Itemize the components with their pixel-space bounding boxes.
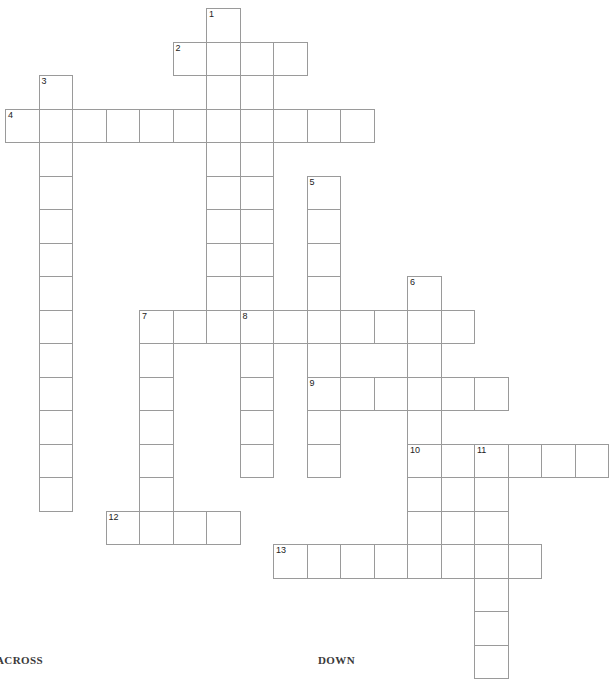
crossword-cell[interactable] bbox=[374, 377, 409, 412]
crossword-cell[interactable]: 4 bbox=[5, 109, 40, 144]
crossword-cell[interactable] bbox=[407, 477, 442, 512]
crossword-cell[interactable] bbox=[39, 343, 74, 378]
crossword-cell[interactable] bbox=[39, 410, 74, 445]
crossword-cell[interactable] bbox=[139, 477, 174, 512]
crossword-cell[interactable] bbox=[307, 410, 342, 445]
crossword-cell[interactable] bbox=[206, 276, 241, 311]
crossword-cell[interactable] bbox=[173, 310, 208, 345]
crossword-cell[interactable] bbox=[139, 343, 174, 378]
crossword-cell[interactable] bbox=[39, 109, 74, 144]
crossword-cell[interactable] bbox=[139, 511, 174, 546]
crossword-cell[interactable] bbox=[340, 544, 375, 579]
crossword-cell[interactable] bbox=[474, 477, 509, 512]
crossword-cell[interactable] bbox=[273, 42, 308, 77]
crossword-cell[interactable] bbox=[139, 377, 174, 412]
crossword-cell[interactable]: 1 bbox=[206, 8, 241, 43]
crossword-cell[interactable] bbox=[407, 410, 442, 445]
crossword-cell[interactable] bbox=[307, 343, 342, 378]
crossword-cell[interactable] bbox=[407, 377, 442, 412]
crossword-cell[interactable]: 5 bbox=[307, 176, 342, 211]
crossword-cell[interactable] bbox=[240, 276, 275, 311]
crossword-cell[interactable] bbox=[39, 377, 74, 412]
crossword-cell[interactable] bbox=[206, 511, 241, 546]
crossword-cell[interactable] bbox=[474, 578, 509, 613]
crossword-cell[interactable] bbox=[441, 544, 476, 579]
crossword-cell[interactable] bbox=[206, 176, 241, 211]
crossword-cell[interactable] bbox=[206, 310, 241, 345]
crossword-cell[interactable] bbox=[139, 109, 174, 144]
crossword-cell[interactable] bbox=[240, 410, 275, 445]
crossword-cell[interactable]: 10 bbox=[407, 444, 442, 479]
crossword-cell[interactable] bbox=[206, 75, 241, 110]
crossword-cell[interactable] bbox=[240, 343, 275, 378]
crossword-cell[interactable] bbox=[474, 544, 509, 579]
crossword-cell[interactable] bbox=[508, 444, 543, 479]
crossword-cell[interactable] bbox=[273, 109, 308, 144]
crossword-cell[interactable] bbox=[240, 142, 275, 177]
crossword-cell[interactable] bbox=[441, 477, 476, 512]
crossword-cell[interactable]: 12 bbox=[106, 511, 141, 546]
crossword-cell[interactable]: 9 bbox=[307, 377, 342, 412]
crossword-cell[interactable] bbox=[39, 444, 74, 479]
crossword-cell[interactable] bbox=[39, 142, 74, 177]
crossword-cell[interactable]: 6 bbox=[407, 276, 442, 311]
crossword-cell[interactable] bbox=[39, 209, 74, 244]
crossword-cell[interactable] bbox=[173, 109, 208, 144]
crossword-cell[interactable] bbox=[240, 109, 275, 144]
crossword-cell[interactable] bbox=[39, 310, 74, 345]
crossword-cell[interactable] bbox=[407, 511, 442, 546]
crossword-cell[interactable] bbox=[139, 444, 174, 479]
crossword-cell[interactable] bbox=[374, 544, 409, 579]
crossword-cell[interactable] bbox=[206, 243, 241, 278]
crossword-cell[interactable] bbox=[206, 209, 241, 244]
crossword-cell[interactable]: 2 bbox=[173, 42, 208, 77]
crossword-cell[interactable] bbox=[39, 243, 74, 278]
crossword-cell[interactable] bbox=[508, 544, 543, 579]
crossword-cell[interactable] bbox=[206, 142, 241, 177]
crossword-cell[interactable] bbox=[307, 276, 342, 311]
crossword-cell[interactable] bbox=[474, 377, 509, 412]
crossword-cell[interactable] bbox=[340, 310, 375, 345]
crossword-cell[interactable] bbox=[541, 444, 576, 479]
crossword-cell[interactable] bbox=[307, 544, 342, 579]
crossword-cell[interactable] bbox=[39, 477, 74, 512]
crossword-cell[interactable] bbox=[273, 310, 308, 345]
crossword-cell[interactable] bbox=[407, 343, 442, 378]
crossword-cell[interactable] bbox=[441, 377, 476, 412]
crossword-cell[interactable] bbox=[340, 109, 375, 144]
crossword-cell[interactable]: 13 bbox=[273, 544, 308, 579]
crossword-cell[interactable] bbox=[173, 511, 208, 546]
crossword-cell[interactable]: 11 bbox=[474, 444, 509, 479]
crossword-cell[interactable]: 8 bbox=[240, 310, 275, 345]
crossword-cell[interactable] bbox=[407, 544, 442, 579]
crossword-cell[interactable] bbox=[340, 377, 375, 412]
crossword-cell[interactable] bbox=[240, 75, 275, 110]
crossword-cell[interactable] bbox=[307, 243, 342, 278]
crossword-cell[interactable] bbox=[374, 310, 409, 345]
crossword-cell[interactable] bbox=[39, 276, 74, 311]
crossword-cell[interactable] bbox=[240, 444, 275, 479]
crossword-cell[interactable] bbox=[474, 511, 509, 546]
crossword-cell[interactable] bbox=[139, 410, 174, 445]
crossword-cell[interactable] bbox=[474, 645, 509, 679]
crossword-cell[interactable] bbox=[407, 310, 442, 345]
crossword-cell[interactable] bbox=[441, 511, 476, 546]
crossword-cell[interactable] bbox=[39, 176, 74, 211]
crossword-cell[interactable] bbox=[240, 209, 275, 244]
crossword-cell[interactable] bbox=[206, 42, 241, 77]
crossword-cell[interactable] bbox=[441, 310, 476, 345]
crossword-cell[interactable]: 7 bbox=[139, 310, 174, 345]
crossword-cell[interactable] bbox=[307, 209, 342, 244]
crossword-cell[interactable] bbox=[240, 377, 275, 412]
crossword-cell[interactable] bbox=[307, 109, 342, 144]
crossword-cell[interactable] bbox=[240, 42, 275, 77]
crossword-cell[interactable] bbox=[206, 109, 241, 144]
crossword-cell[interactable] bbox=[240, 176, 275, 211]
crossword-cell[interactable] bbox=[72, 109, 107, 144]
crossword-cell[interactable] bbox=[307, 310, 342, 345]
crossword-cell[interactable] bbox=[106, 109, 141, 144]
crossword-cell[interactable]: 3 bbox=[39, 75, 74, 110]
crossword-cell[interactable] bbox=[240, 243, 275, 278]
crossword-cell[interactable] bbox=[575, 444, 609, 479]
